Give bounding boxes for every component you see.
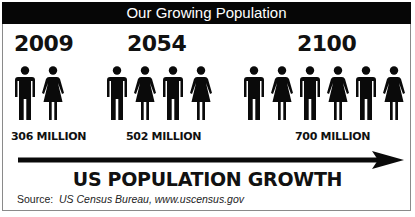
population-label-2100: 700 MILLION <box>295 130 370 143</box>
population-label-2009: 306 MILLION <box>11 130 86 143</box>
title-bar: Our Growing Population <box>2 2 411 24</box>
people-group-2054 <box>106 66 212 122</box>
man-icon <box>243 66 265 122</box>
woman-icon <box>42 66 64 122</box>
year-2009: 2009 <box>14 31 73 56</box>
population-label-2054: 502 MILLION <box>126 130 201 143</box>
woman-icon <box>134 66 156 122</box>
year-2100: 2100 <box>297 31 356 56</box>
people-group-2009 <box>14 66 64 122</box>
source-text: US Census Bureau, www.uscensus.gov <box>59 193 244 205</box>
man-icon <box>14 66 36 122</box>
man-icon <box>355 66 377 122</box>
right-arrow-icon <box>16 150 406 170</box>
man-icon <box>106 66 128 122</box>
man-icon <box>162 66 184 122</box>
headline: US POPULATION GROWTH <box>0 168 415 190</box>
woman-icon <box>190 66 212 122</box>
woman-icon <box>271 66 293 122</box>
woman-icon <box>327 66 349 122</box>
people-group-2100 <box>243 66 405 122</box>
source-prefix: Source: <box>17 193 53 205</box>
woman-icon <box>383 66 405 122</box>
man-icon <box>299 66 321 122</box>
year-2054: 2054 <box>127 31 186 56</box>
source-citation: Source: US Census Bureau, www.uscensus.g… <box>17 193 244 205</box>
